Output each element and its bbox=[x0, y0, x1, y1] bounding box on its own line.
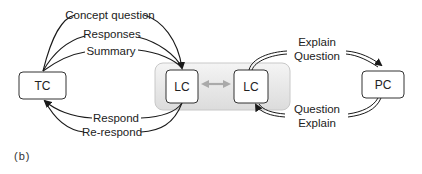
node-tc-label: TC bbox=[35, 79, 51, 93]
label-explain-bottom: Explain bbox=[298, 117, 336, 129]
label-question-bottom: Question bbox=[294, 103, 340, 115]
node-lc-right-label: LC bbox=[243, 80, 259, 94]
label-concept-question: Concept question bbox=[65, 9, 155, 21]
label-re-respond: Re-respond bbox=[82, 126, 142, 138]
label-explain-top: Explain bbox=[298, 36, 336, 48]
node-pc-label: PC bbox=[375, 78, 392, 92]
node-lc-left-label: LC bbox=[174, 80, 190, 94]
label-respond: Respond bbox=[93, 112, 139, 124]
label-responses: Responses bbox=[83, 28, 141, 40]
diagram-canvas: TC LC LC PC Concept question Responses S… bbox=[0, 0, 422, 174]
label-question-top: Question bbox=[294, 50, 340, 62]
edges-tc-to-lc bbox=[43, 15, 182, 71]
label-summary: Summary bbox=[86, 45, 135, 57]
figure-caption: (b) bbox=[14, 150, 30, 162]
